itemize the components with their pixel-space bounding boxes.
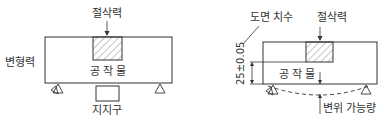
right-arrow-head-icon: [318, 36, 323, 41]
right-cut-region: [306, 42, 333, 62]
left-support-left-icon: [51, 84, 63, 94]
fixture-label: 지지구: [92, 104, 122, 117]
left-diagram: 절삭력 변형력 공 작 물 지지구: [5, 7, 172, 117]
left-support-right-icon: [155, 84, 165, 93]
displacement-arrow: [318, 72, 322, 114]
left-cut-region: [93, 37, 122, 60]
left-arrow-head-icon: [105, 31, 110, 36]
drawing-dimension-label: 도면 치수: [250, 11, 294, 24]
left-workpiece-label: 공 작 물: [90, 65, 127, 78]
dimension-value: 25±0.05: [235, 42, 246, 85]
deformation-force-label: 변형력: [5, 56, 35, 69]
diagram-canvas: 절삭력 변형력 공 작 물 지지구 도면 치수 절삭력 25±0.05: [0, 0, 391, 124]
fixture-block: [96, 86, 119, 101]
right-support-left-icon: [266, 85, 278, 95]
dimension-arrow: [250, 62, 254, 84]
right-cutting-force-label: 절삭력: [317, 11, 347, 24]
right-diagram: 도면 치수 절삭력 25±0.05 공 작 물 변위 가능량: [235, 11, 377, 115]
right-support-right-icon: [361, 85, 371, 94]
deflection-curve: [268, 86, 369, 95]
left-cutting-force-label: 절삭력: [92, 7, 122, 20]
displacement-label: 변위 가능량: [323, 102, 377, 115]
right-workpiece-label: 공 작 물: [279, 68, 316, 81]
drawing-dimension-leader: [243, 26, 259, 44]
